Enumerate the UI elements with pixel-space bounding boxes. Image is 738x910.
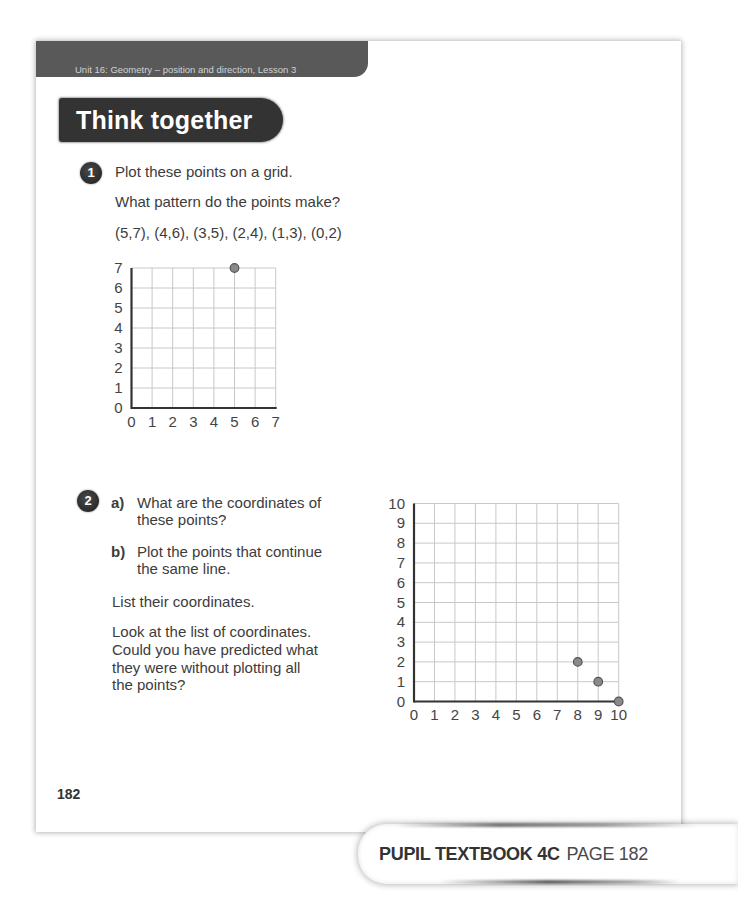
q1-instruction: Plot these points on a grid. (115, 163, 293, 181)
x-tick-label: 1 (430, 706, 438, 723)
y-tick-label: 6 (397, 574, 405, 591)
x-tick-label: 3 (471, 706, 479, 723)
q1-coordinates-list: (5,7), (4,6), (3,5), (2,4), (1,3), (0,2) (115, 224, 342, 242)
footer-label: PUPIL TEXTBOOK 4CPAGE 182 (379, 843, 648, 865)
y-tick-label: 3 (114, 339, 122, 356)
y-tick-label: 1 (114, 379, 122, 396)
q2-part-a-line-2: these points? (137, 511, 226, 529)
x-tick-label: 0 (127, 413, 135, 430)
footer-book-title: PUPIL TEXTBOOK 4C (379, 844, 560, 864)
x-tick-label: 7 (553, 706, 561, 723)
y-tick-label: 6 (114, 279, 122, 296)
x-tick-label: 10 (610, 706, 627, 723)
footer-tab-bottom-edge (440, 880, 680, 884)
x-tick-label: 1 (148, 413, 156, 430)
x-tick-label: 4 (210, 413, 218, 430)
coordinate-grid-q1[interactable]: 0123456701234567 (105, 255, 290, 435)
y-tick-label: 8 (397, 534, 405, 551)
x-tick-label: 9 (594, 706, 602, 723)
question-number-badge-2: 2 (77, 490, 99, 512)
q2-part-b-line-2: the same line. (137, 560, 230, 578)
grid-lines (132, 268, 276, 408)
x-tick-label: 2 (169, 413, 177, 430)
section-title: Think together (76, 98, 252, 142)
page-number: 182 (57, 786, 80, 802)
grid-lines (414, 504, 619, 702)
y-tick-label: 4 (114, 319, 122, 336)
y-tick-label: 1 (397, 673, 405, 690)
plotted-point (230, 264, 239, 273)
y-tick-label: 10 (388, 495, 405, 512)
y-tick-label: 7 (114, 259, 122, 276)
footer-page-ref: PAGE 182 (567, 844, 648, 864)
y-tick-label: 7 (397, 554, 405, 571)
x-tick-label: 5 (512, 706, 520, 723)
x-tick-label: 6 (251, 413, 259, 430)
x-tick-label: 4 (492, 706, 500, 723)
q2-follow-up: List their coordinates. (112, 593, 255, 611)
question-number-badge-1: 1 (80, 162, 102, 184)
coordinate-grid-q2[interactable]: 012345678910012345678910 (380, 490, 640, 730)
x-tick-label: 7 (272, 413, 280, 430)
y-tick-label: 2 (114, 359, 122, 376)
q2-part-a-label: a) (111, 494, 124, 512)
x-tick-label: 8 (574, 706, 582, 723)
y-tick-label: 2 (397, 653, 405, 670)
y-tick-label: 5 (114, 299, 122, 316)
q2-part-b-label: b) (111, 543, 125, 561)
x-tick-label: 3 (189, 413, 197, 430)
footer-tab-top-edge (395, 823, 695, 827)
x-tick-label: 2 (451, 706, 459, 723)
y-tick-label: 3 (397, 633, 405, 650)
q1-question: What pattern do the points make? (115, 193, 340, 211)
y-tick-label: 9 (397, 514, 405, 531)
unit-lesson-label: Unit 16: Geometry – position and directi… (75, 64, 296, 76)
q2-reflection-line-2: Could you have predicted what (112, 641, 318, 659)
x-tick-label: 0 (410, 706, 418, 723)
q2-reflection-line-3: they were without plotting all (112, 659, 300, 677)
plotted-point (594, 677, 603, 686)
y-tick-label: 5 (397, 594, 405, 611)
x-tick-label: 5 (230, 413, 238, 430)
q2-part-b-line-1: Plot the points that continue (137, 543, 322, 561)
plotted-point (614, 697, 623, 706)
y-tick-label: 0 (114, 399, 122, 416)
y-tick-label: 4 (397, 613, 405, 630)
x-tick-label: 6 (533, 706, 541, 723)
q2-reflection-line-4: the points? (112, 676, 185, 694)
section-banner: Think together (59, 98, 283, 142)
plotted-point (573, 658, 582, 667)
q2-reflection-line-1: Look at the list of coordinates. (112, 623, 311, 641)
q2-part-a-line-1: What are the coordinates of (137, 494, 321, 512)
y-tick-label: 0 (397, 693, 405, 710)
